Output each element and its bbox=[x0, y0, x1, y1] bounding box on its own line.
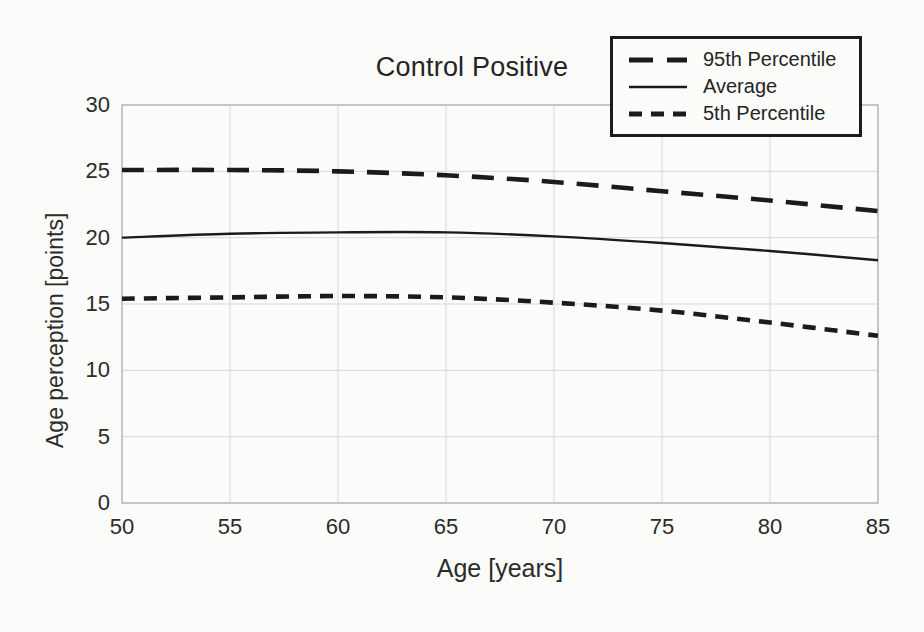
x-tick-label: 85 bbox=[848, 514, 908, 540]
legend-item-95th-percentile: 95th Percentile bbox=[629, 46, 853, 73]
x-axis-label: Age [years] bbox=[122, 554, 878, 583]
y-axis-label: Age perception [points] bbox=[42, 213, 69, 448]
legend-item-average: Average bbox=[629, 73, 853, 100]
y-tick-label: 30 bbox=[56, 92, 110, 118]
scanned-chart-page: Control Positive 95th Percentile Average… bbox=[0, 0, 924, 632]
short-dash-line-icon bbox=[629, 108, 687, 120]
legend-item-5th-percentile: 5th Percentile bbox=[629, 100, 853, 127]
series-line-5th-percentile bbox=[122, 296, 878, 336]
x-tick-label: 60 bbox=[308, 514, 368, 540]
series-line-average bbox=[122, 232, 878, 260]
x-tick-label: 50 bbox=[92, 514, 152, 540]
x-tick-label: 70 bbox=[524, 514, 584, 540]
x-tick-label: 75 bbox=[632, 514, 692, 540]
long-dash-line-icon bbox=[629, 54, 687, 66]
legend-label-average: Average bbox=[703, 75, 777, 98]
x-tick-label: 65 bbox=[416, 514, 476, 540]
x-tick-label: 80 bbox=[740, 514, 800, 540]
legend-label-5th-percentile: 5th Percentile bbox=[703, 102, 825, 125]
legend-label-95th-percentile: 95th Percentile bbox=[703, 48, 836, 71]
y-tick-label: 0 bbox=[56, 490, 110, 516]
plot-area bbox=[122, 105, 878, 503]
y-tick-label: 25 bbox=[56, 158, 110, 184]
x-tick-label: 55 bbox=[200, 514, 260, 540]
series-line-95th-percentile bbox=[122, 170, 878, 211]
data-series bbox=[122, 170, 878, 336]
chart-legend: 95th Percentile Average 5th Percentile bbox=[610, 36, 862, 137]
solid-line-icon bbox=[629, 81, 687, 93]
gridlines bbox=[122, 105, 878, 503]
